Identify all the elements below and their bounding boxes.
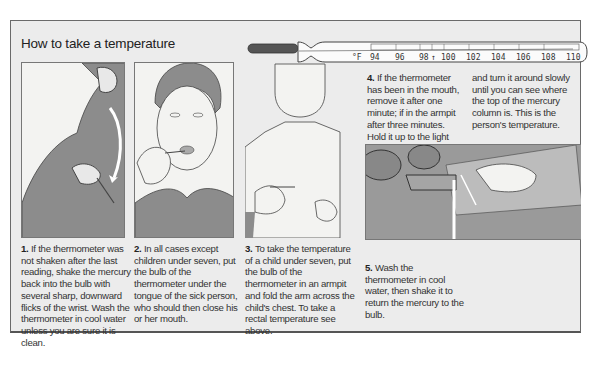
step-3-number: 3. (245, 243, 253, 254)
step-2: 2. In all cases except children under se… (134, 243, 238, 325)
illustration-washing-thermometer (365, 144, 581, 240)
illustration-armpit-thermometer (245, 62, 345, 238)
svg-text:98: 98 (419, 53, 429, 62)
normal-marker: ↑ (431, 53, 436, 62)
unit-label: °F (352, 53, 362, 62)
svg-text:96: 96 (395, 53, 405, 62)
step-1: 1. If the thermometer was not shaken aft… (21, 243, 131, 348)
svg-text:110: 110 (566, 53, 581, 62)
step-4-number: 4. (367, 72, 375, 83)
step-4-continued: and turn it around slowly until you can … (472, 72, 578, 131)
step-5-number: 5. (365, 262, 373, 273)
step-4-text-continued: and turn it around slowly until you can … (472, 72, 570, 130)
svg-text:100: 100 (441, 53, 456, 62)
step-5-text: Wash the thermometer in cool water, then… (365, 262, 464, 320)
svg-text:106: 106 (516, 53, 531, 62)
step-1-number: 1. (21, 243, 29, 254)
svg-text:94: 94 (370, 53, 380, 62)
svg-text:102: 102 (466, 53, 481, 62)
step-1-text: If the thermometer was not shaken after … (21, 243, 131, 348)
step-2-text: In all cases except children under seven… (134, 243, 238, 324)
svg-text:104: 104 (491, 53, 506, 62)
illustration-shaking-thermometer (21, 62, 125, 238)
step-3: 3. To take the temperature of a child un… (245, 243, 355, 337)
svg-text:108: 108 (541, 53, 556, 62)
step-5: 5. Wash the thermometer in cool water, t… (365, 262, 465, 321)
illustration-oral-thermometer (134, 62, 234, 238)
step-4-text: If the thermometer has been in the mouth… (367, 72, 459, 142)
step-2-number: 2. (134, 243, 142, 254)
step-3-text: To take the temperature of a child under… (245, 243, 355, 336)
page-title: How to take a temperature (21, 36, 175, 51)
step-4: 4. If the thermometer has been in the mo… (367, 72, 463, 142)
